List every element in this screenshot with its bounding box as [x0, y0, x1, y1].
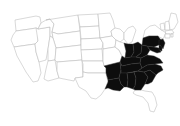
state-region: [80, 26, 100, 39]
state-region: [142, 36, 161, 47]
state-region: [165, 30, 174, 34]
map-figure: [0, 0, 180, 126]
state-region: [78, 14, 99, 27]
state-region: [171, 34, 173, 37]
state-region: [55, 45, 82, 62]
state-region: [81, 49, 103, 61]
state-region: [160, 23, 165, 30]
state-region: [81, 38, 103, 50]
state-region: [165, 34, 170, 38]
state-region: [82, 61, 106, 73]
us-choropleth-map: [0, 0, 180, 126]
